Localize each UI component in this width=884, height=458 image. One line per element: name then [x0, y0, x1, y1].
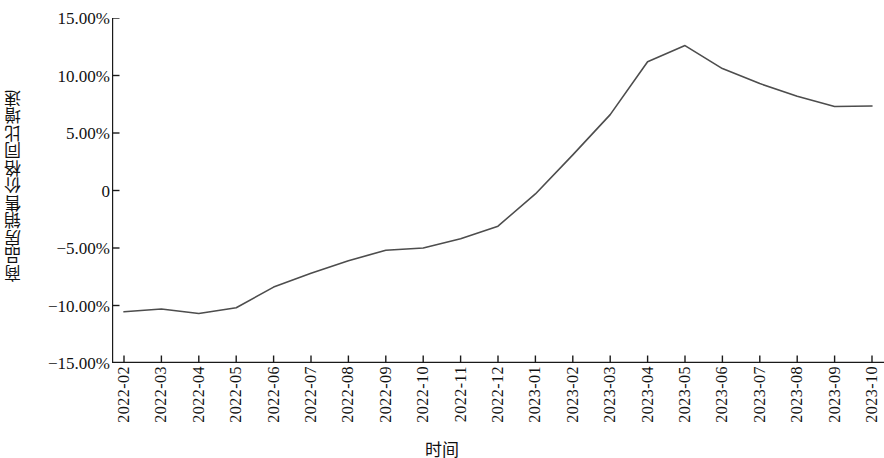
data-series-group — [124, 46, 872, 314]
y-axis-tick-label: 5.00% — [18, 125, 110, 142]
data-line — [124, 46, 872, 314]
x-axis-tick-label: 2022-12 — [490, 366, 506, 423]
x-axis-tick-label: 2022-02 — [116, 366, 132, 423]
y-axis-ticks — [113, 18, 120, 363]
y-axis-tick-label: 15.00% — [18, 10, 110, 27]
x-axis-tick-label: 2023-08 — [789, 366, 805, 423]
x-axis-tick-label: 2023-09 — [827, 366, 843, 423]
x-axis-tick-label: 2023-06 — [714, 366, 730, 423]
x-axis-tick-label: 2022-11 — [453, 366, 469, 422]
plot-area — [112, 18, 884, 363]
x-axis-tick-label: 2022-09 — [378, 366, 394, 423]
x-axis-tick-label: 2022-05 — [228, 366, 244, 423]
x-axis-tick-label: 2023-05 — [677, 366, 693, 423]
y-axis-tick-label: −10.00% — [18, 298, 110, 315]
x-axis-tick-label: 2022-06 — [266, 366, 282, 423]
x-axis-tick-label: 2022-07 — [303, 366, 319, 423]
x-axis-tick-label: 2022-03 — [153, 366, 169, 423]
x-axis-ticks — [124, 356, 872, 363]
y-axis-tick-label: 0 — [18, 183, 110, 200]
x-axis-tick-label: 2023-03 — [602, 366, 618, 423]
x-axis-tick-label: 2022-08 — [340, 366, 356, 423]
y-axis-tick-label: 10.00% — [18, 68, 110, 85]
x-axis-tick-label: 2023-10 — [864, 366, 880, 423]
x-axis-tick-label: 2022-04 — [191, 366, 207, 423]
x-axis-tick-label: 2023-07 — [752, 366, 768, 423]
x-axis-tick-label: 2023-04 — [640, 366, 656, 423]
chart-svg — [112, 18, 884, 363]
x-axis-tick-label: 2023-01 — [527, 366, 543, 423]
x-axis-tick-label: 2022-10 — [415, 366, 431, 423]
x-axis-tick-labels: 2022-022022-032022-042022-052022-062022-… — [0, 366, 883, 446]
x-axis-tick-label: 2023-02 — [565, 366, 581, 423]
y-axis-tick-label: −5.00% — [18, 240, 110, 257]
x-axis-title: 时间 — [0, 436, 883, 458]
